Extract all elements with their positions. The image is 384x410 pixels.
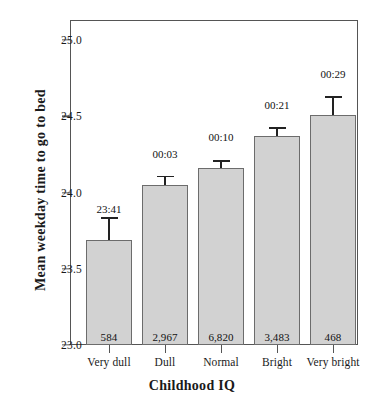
x-category-label: Very bright [306, 356, 359, 368]
bar-rect: 2,967 [142, 185, 188, 345]
bar-value-label: 23:41 [78, 203, 140, 215]
bar-value-label: 00:10 [190, 131, 252, 143]
x-tick-mark [109, 345, 110, 353]
bar-value-label: 00:29 [302, 68, 364, 80]
bar-sample-size: 2,967 [143, 331, 187, 343]
bar-rect: 6,820 [198, 168, 244, 345]
bar-sample-size: 584 [87, 331, 131, 343]
bar-rect: 468 [310, 115, 356, 345]
x-tick-mark [277, 345, 278, 353]
bar-sample-size: 468 [311, 331, 355, 343]
x-tick-mark [221, 345, 222, 353]
x-category-label: Very dull [87, 356, 130, 368]
bar-rect: 3,483 [254, 136, 300, 345]
x-tick-mark [333, 345, 334, 353]
x-category-label: Bright [262, 356, 292, 368]
bar-sample-size: 6,820 [199, 331, 243, 343]
bar-sample-size: 3,483 [255, 331, 299, 343]
x-axis-title: Childhood IQ [0, 378, 384, 394]
bar-rect: 584 [86, 240, 132, 346]
x-category-label: Normal [203, 356, 239, 368]
x-tick-mark [165, 345, 166, 353]
bar-value-label: 00:21 [246, 99, 308, 111]
bar-value-label: 00:03 [134, 148, 196, 160]
x-category-label: Dull [155, 356, 176, 368]
y-axis-title: Mean weekday time to go to bed [33, 65, 49, 315]
bar-chart: 23.0 23.5 24.0 24.5 25.0 Mean weekday ti… [0, 0, 384, 410]
bars-layer: 23:41 584 00:03 2,967 00:10 6,820 [70, 20, 358, 345]
